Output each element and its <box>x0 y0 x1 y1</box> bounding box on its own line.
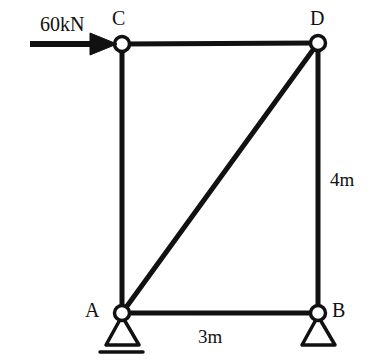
dimension-label-span: 3m <box>198 327 222 346</box>
node-label-b: B <box>332 300 345 320</box>
dimension-label-height: 4m <box>330 170 354 189</box>
truss-drawing-canvas <box>0 0 372 361</box>
member-AD-diagonal <box>122 43 318 313</box>
load-label-60kn: 60kN <box>40 14 84 34</box>
joint-node-d <box>311 36 326 51</box>
load-arrow-head <box>90 33 117 55</box>
joint-node-b <box>311 306 326 321</box>
truss-diagram: C D A B 4m 3m 60kN <box>0 0 372 361</box>
node-label-d: D <box>310 8 324 28</box>
load-arrow-60kn <box>30 33 117 55</box>
member-CD <box>122 43 318 44</box>
joint-node-a <box>115 306 130 321</box>
node-label-c: C <box>112 8 125 28</box>
node-label-a: A <box>85 300 99 320</box>
